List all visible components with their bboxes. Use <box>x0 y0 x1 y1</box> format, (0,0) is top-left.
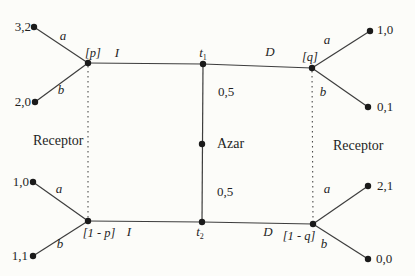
node-receiver-bottom-right <box>310 221 316 227</box>
message-d-top: D <box>264 44 275 59</box>
type-label-t1: t1 <box>199 45 207 62</box>
action-a-top-left: a <box>60 28 67 43</box>
receiver-label-right: Receptor <box>333 138 384 153</box>
message-i-bottom: I <box>126 224 132 239</box>
edge-message-i-bottom <box>88 221 202 222</box>
node-chance <box>199 141 205 147</box>
type-t2-subscript: 2 <box>200 232 204 241</box>
edge-action-a-bottom-right <box>313 186 368 224</box>
terminal-bottom-left-b <box>30 253 36 259</box>
chance-prob-bottom: 0,5 <box>217 184 233 199</box>
belief-1-minus-q: [1 - q] <box>283 229 316 243</box>
node-receiver-top-right <box>309 65 315 71</box>
node-receiver-top-left <box>85 60 91 66</box>
chance-prob-top: 0,5 <box>218 84 234 99</box>
receiver-label-left: Receptor <box>33 133 84 148</box>
signaling-game-figure: 3,2 2,0 1,0 0,1 1,0 1,1 2,1 0,0 [p] [q] … <box>0 0 415 276</box>
terminal-bottom-left-a <box>30 179 36 185</box>
terminal-bottom-right-b <box>365 256 371 262</box>
message-i-top: I <box>114 45 120 60</box>
payoff-bottom-left-a: 1,0 <box>13 174 29 189</box>
info-set-right-dashed-line <box>312 71 313 221</box>
chance-label: Azar <box>217 136 245 151</box>
payoff-bottom-right-a: 2,1 <box>377 178 393 193</box>
payoff-bottom-left-b: 1,1 <box>12 248 28 263</box>
message-d-bottom: D <box>262 224 273 239</box>
terminal-top-right-a <box>367 28 373 34</box>
payoff-top-right-a: 1,0 <box>377 22 393 37</box>
action-b-top-right: b <box>320 84 327 99</box>
action-a-top-right: a <box>324 32 331 47</box>
belief-1-minus-p: [1 - p] <box>83 226 116 240</box>
node-type-t1 <box>200 61 206 67</box>
action-b-bottom-right: b <box>321 236 328 251</box>
edge-message-i-top <box>88 63 203 64</box>
action-a-bottom-left: a <box>56 181 63 196</box>
belief-q: [q] <box>302 50 318 64</box>
edge-message-d-bottom <box>202 222 313 224</box>
action-a-bottom-right: a <box>324 181 331 196</box>
belief-p: [p] <box>85 46 101 60</box>
payoff-top-right-b: 0,1 <box>377 99 393 114</box>
action-b-top-left: b <box>58 82 65 97</box>
edge-message-d-top <box>203 64 312 68</box>
action-b-bottom-left: b <box>57 236 64 251</box>
game-tree-canvas: 3,2 2,0 1,0 0,1 1,0 1,1 2,1 0,0 [p] [q] … <box>0 0 415 276</box>
terminal-top-left-a <box>31 24 37 30</box>
edge-action-a-top-right <box>312 31 370 68</box>
node-receiver-bottom-left <box>85 218 91 224</box>
type-t1-subscript: 1 <box>203 53 207 62</box>
terminal-top-left-b <box>32 99 38 105</box>
type-label-t2: t2 <box>196 224 204 241</box>
terminal-top-right-b <box>365 104 371 110</box>
terminal-bottom-right-a <box>365 183 371 189</box>
payoff-top-left-b: 2,0 <box>15 94 31 109</box>
payoff-top-left-a: 3,2 <box>15 19 31 34</box>
payoff-bottom-right-b: 0,0 <box>376 251 392 266</box>
